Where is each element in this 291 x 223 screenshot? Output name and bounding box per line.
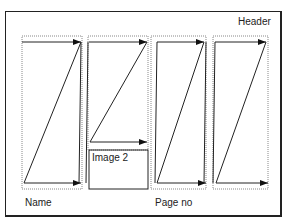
image-2-box bbox=[89, 150, 148, 189]
column-4-flow-arrows bbox=[213, 42, 268, 183]
column-guides bbox=[22, 36, 268, 189]
column-3-flow-arrows bbox=[155, 42, 206, 183]
reading-flow-diagram bbox=[0, 0, 291, 223]
column-1-flow-arrows bbox=[22, 42, 81, 183]
column-2-flow-arrows bbox=[86, 42, 147, 183]
column-3-guide bbox=[151, 36, 206, 189]
